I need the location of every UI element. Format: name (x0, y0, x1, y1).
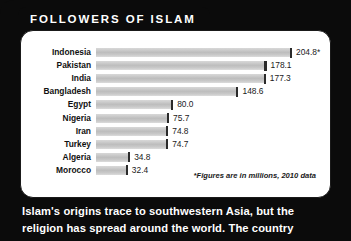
bar (96, 74, 265, 83)
bar (96, 153, 129, 162)
bar-value-label: 178.1 (271, 60, 292, 71)
bar-end-marker (167, 113, 169, 123)
bar-category-label: Iran (21, 126, 96, 137)
bar-category-label: Egypt (21, 99, 96, 110)
bar-category-label: Pakistan (21, 60, 96, 71)
bar-end-marker (290, 48, 292, 58)
bar-track: 178.1 (96, 61, 330, 70)
chart-footnote: *Figures are in millions, 2010 data (194, 171, 316, 180)
bar-end-marker (171, 100, 173, 110)
bar-value-label: 75.7 (173, 113, 189, 124)
bar-value-label: 148.6 (242, 86, 263, 97)
chart-panel: Indonesia204.8*Pakistan178.1India177.3Ba… (20, 30, 331, 198)
bar-value-label: 34.8 (134, 152, 150, 163)
bar-value-label: 204.8* (296, 47, 320, 58)
bar-value-label: 32.4 (132, 165, 148, 176)
bar (96, 127, 167, 136)
page-title: FOLLOWERS OF ISLAM (30, 13, 196, 25)
bar-track: 177.3 (96, 74, 330, 83)
bar-category-label: Turkey (21, 139, 96, 150)
bar (96, 100, 172, 109)
bar-value-label: 177.3 (270, 73, 291, 84)
bar-end-marker (236, 87, 238, 97)
bar (96, 140, 167, 149)
bar (96, 61, 266, 70)
bar-row: Pakistan178.1 (21, 60, 330, 71)
bar-category-label: Bangladesh (21, 86, 96, 97)
bar-category-label: Nigeria (21, 113, 96, 124)
bar-row: Bangladesh148.6 (21, 86, 330, 97)
bar-value-label: 80.0 (177, 99, 193, 110)
bar-value-label: 74.7 (172, 139, 188, 150)
bar-end-marker (166, 126, 168, 136)
bar-end-marker (166, 139, 168, 149)
bar (96, 87, 237, 96)
bar-track: 34.8 (96, 153, 330, 162)
bar-row: Iran74.8 (21, 126, 330, 137)
bar-track: 204.8* (96, 48, 330, 57)
caption-line-1: Islam's origins trace to southwestern As… (22, 203, 332, 220)
bar-category-label: India (21, 73, 96, 84)
bar-track: 148.6 (96, 87, 330, 96)
bar-row: Turkey74.7 (21, 139, 330, 150)
bar-end-marker (264, 74, 266, 84)
bar-end-marker (264, 61, 266, 71)
bar-category-label: Indonesia (21, 47, 96, 58)
caption-block: Islam's origins trace to southwestern As… (22, 203, 332, 237)
bar-track: 75.7 (96, 114, 330, 123)
bar-track: 74.8 (96, 127, 330, 136)
bar-row: India177.3 (21, 73, 330, 84)
bar-category-label: Morocco (21, 165, 96, 176)
bar (96, 48, 291, 57)
bar-row: Nigeria75.7 (21, 113, 330, 124)
infographic-root: FOLLOWERS OF ISLAM Indonesia204.8*Pakist… (0, 0, 351, 241)
bar-row: Egypt80.0 (21, 99, 330, 110)
bar-track: 74.7 (96, 140, 330, 149)
bar-track: 80.0 (96, 100, 330, 109)
bar-end-marker (126, 165, 128, 175)
title-tab: FOLLOWERS OF ISLAM (18, 7, 210, 30)
bar-end-marker (128, 152, 130, 162)
bar (96, 166, 127, 175)
bar (96, 114, 168, 123)
bar-category-label: Algeria (21, 152, 96, 163)
bar-value-label: 74.8 (172, 126, 188, 137)
caption-line-2: religion has spread around the world. Th… (22, 220, 332, 237)
bar-row: Indonesia204.8* (21, 47, 330, 58)
bar-row: Algeria34.8 (21, 152, 330, 163)
